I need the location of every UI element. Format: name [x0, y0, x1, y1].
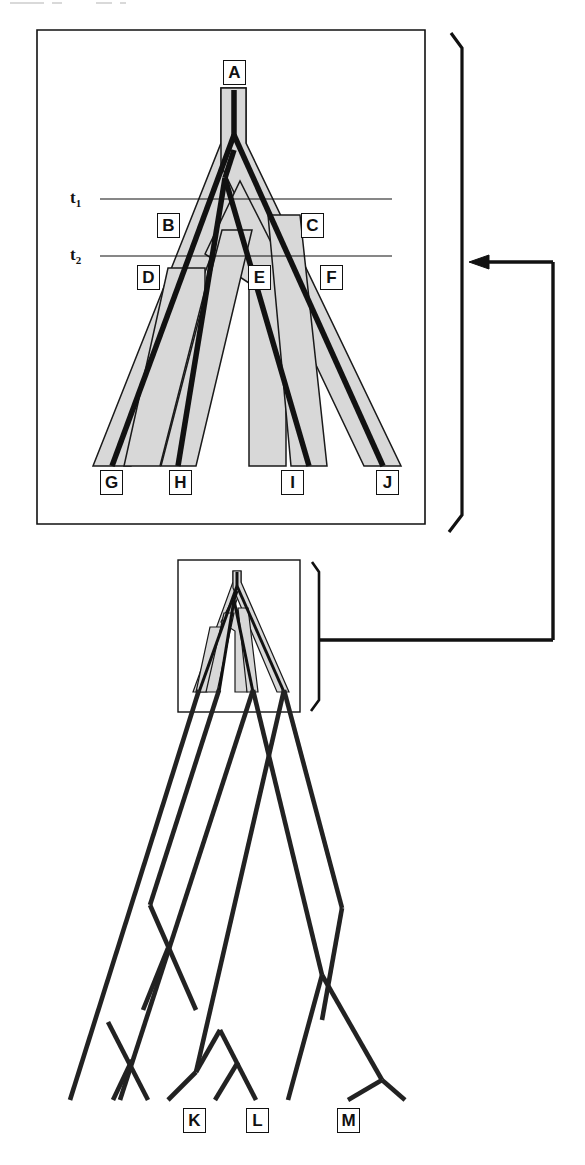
gene-label-K[interactable]: K — [183, 1108, 206, 1133]
magnification-bracket-large — [449, 33, 462, 532]
node-label-I[interactable]: I — [281, 470, 304, 495]
node-label-D[interactable]: D — [137, 265, 160, 290]
node-label-J[interactable]: J — [376, 470, 399, 495]
node-label-G[interactable]: G — [100, 470, 123, 495]
large-gene-tree — [70, 690, 405, 1100]
time-label-t2-sub: 2 — [76, 254, 82, 266]
node-label-A[interactable]: A — [223, 60, 246, 85]
figure-canvas: A B C D E F G H I J K L M t1 t2 — [0, 0, 585, 1165]
node-label-B[interactable]: B — [157, 213, 180, 238]
time-label-t1: t1 — [70, 188, 81, 209]
inset-species-tree — [193, 571, 289, 692]
diagram-svg — [0, 0, 585, 1165]
gene-label-L[interactable]: L — [246, 1108, 269, 1133]
time-label-t2: t2 — [70, 245, 81, 266]
node-label-E[interactable]: E — [248, 265, 271, 290]
node-label-H[interactable]: H — [169, 470, 192, 495]
node-label-F[interactable]: F — [320, 265, 343, 290]
gene-label-M[interactable]: M — [337, 1108, 360, 1133]
node-label-C[interactable]: C — [301, 213, 324, 238]
time-label-t1-sub: 1 — [76, 197, 82, 209]
magnification-bracket-small — [311, 562, 319, 711]
